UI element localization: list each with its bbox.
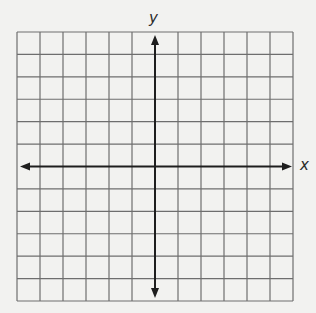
- arrow-right-icon: [282, 163, 292, 171]
- x-axis-label: x: [300, 158, 309, 173]
- axes: [20, 35, 292, 298]
- coordinate-plane: x y: [0, 0, 316, 313]
- arrow-up-icon: [151, 35, 159, 45]
- y-axis-label: y: [149, 11, 158, 26]
- coordinate-grid: [0, 0, 316, 313]
- arrow-down-icon: [151, 288, 159, 298]
- arrow-left-icon: [20, 163, 30, 171]
